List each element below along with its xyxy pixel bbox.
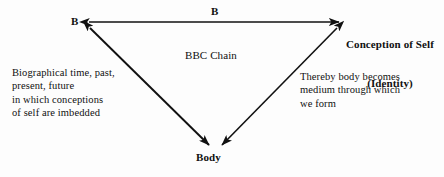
node-label-body: Body <box>196 151 221 164</box>
bbc-chain-diagram: B Conception of Self (Identity) Body B B… <box>0 0 444 177</box>
annotation-note-left: Biographical time, past, present, future… <box>12 66 115 120</box>
node-label-b: B <box>71 15 78 28</box>
node-label-conception-of-self-line1: Conception of Self <box>346 38 434 51</box>
annotation-note-right: Thereby body becomes medium through whic… <box>300 70 400 110</box>
center-caption-bbc-chain: BBC Chain <box>185 49 237 62</box>
edge-label-top-b: B <box>211 5 218 18</box>
